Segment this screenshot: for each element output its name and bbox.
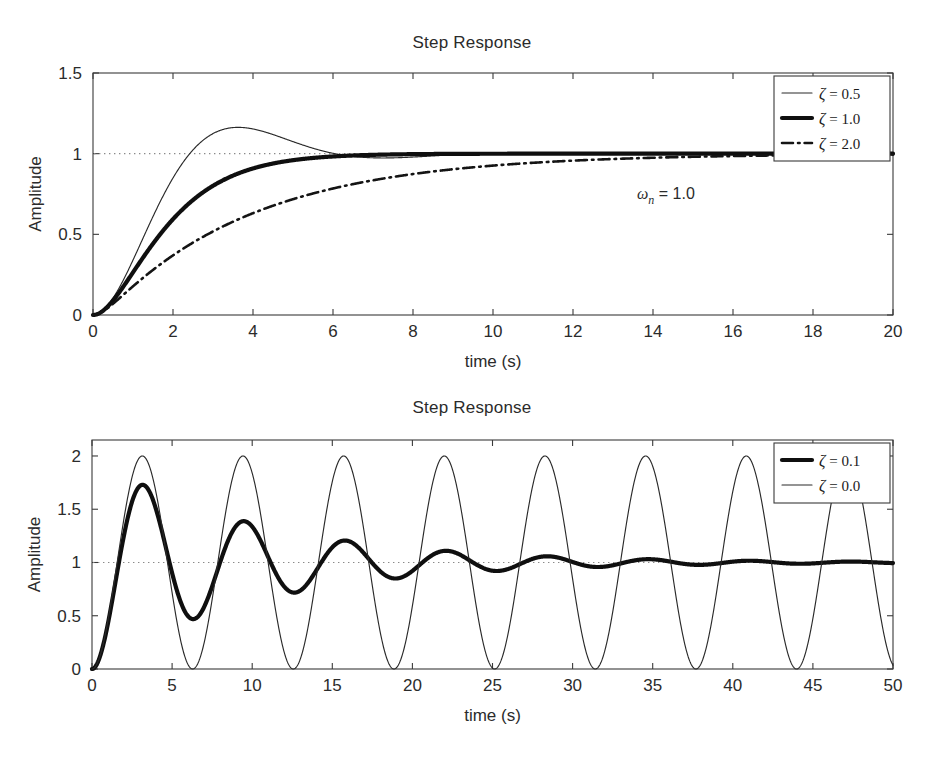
legend-entry-label: ζ = 0.5 <box>819 85 860 103</box>
x-tick-label: 40 <box>723 676 742 695</box>
x-axis-label: time (s) <box>464 706 521 725</box>
x-tick-label: 12 <box>564 322 583 341</box>
plot-frame <box>92 440 893 669</box>
chart-canvas-top: 0246810121416182000.511.5time (s)Amplitu… <box>0 0 944 390</box>
x-tick-label: 4 <box>248 322 257 341</box>
legend-entry-label: ζ = 0.1 <box>819 452 860 470</box>
step-response-figure: Step Response 0246810121416182000.511.5t… <box>0 0 944 774</box>
y-axis-label: Amplitude <box>25 517 44 593</box>
curve-zeta-0-1 <box>92 485 893 669</box>
x-tick-label: 15 <box>323 676 342 695</box>
x-tick-label: 5 <box>167 676 176 695</box>
y-axis-label: Amplitude <box>26 156 45 232</box>
chart-canvas-bottom: 0510152025303540455000.511.52time (s)Amp… <box>0 386 944 774</box>
y-tick-label: 2 <box>72 447 81 466</box>
x-tick-label: 6 <box>328 322 337 341</box>
chart-title-bottom: Step Response <box>0 398 944 418</box>
x-tick-label: 0 <box>88 322 97 341</box>
x-axis-label: time (s) <box>465 352 522 371</box>
y-tick-label: 0 <box>72 660 81 679</box>
legend-entry-label: ζ = 0.0 <box>819 477 860 495</box>
y-tick-label: 1.5 <box>58 64 82 83</box>
x-tick-label: 18 <box>804 322 823 341</box>
annotation-text: ωn = 1.0 <box>637 185 695 207</box>
x-tick-label: 2 <box>168 322 177 341</box>
y-tick-label: 0.5 <box>57 607 81 626</box>
x-tick-label: 45 <box>803 676 822 695</box>
curve-zeta-2-0 <box>93 154 893 315</box>
x-tick-label: 14 <box>644 322 663 341</box>
x-tick-label: 35 <box>643 676 662 695</box>
y-tick-label: 0 <box>73 306 82 325</box>
chart-panel-top: Step Response 0246810121416182000.511.5t… <box>0 0 944 390</box>
y-tick-label: 1.5 <box>57 500 81 519</box>
x-tick-label: 25 <box>483 676 502 695</box>
chart-title-top: Step Response <box>0 33 944 53</box>
x-tick-label: 10 <box>243 676 262 695</box>
curve-zeta-1-0 <box>93 154 893 315</box>
x-tick-label: 0 <box>87 676 96 695</box>
annotation-omega-n: ωn = 1.0 <box>637 185 695 207</box>
x-tick-label: 20 <box>884 322 903 341</box>
chart-panel-bottom: Step Response 0510152025303540455000.511… <box>0 386 944 774</box>
x-tick-label: 8 <box>408 322 417 341</box>
legend-box <box>774 443 890 503</box>
plot-frame <box>93 73 893 315</box>
y-tick-label: 0.5 <box>58 225 82 244</box>
x-tick-label: 50 <box>884 676 903 695</box>
y-tick-label: 1 <box>72 553 81 572</box>
x-tick-label: 20 <box>403 676 422 695</box>
x-tick-label: 16 <box>724 322 743 341</box>
y-tick-label: 1 <box>73 145 82 164</box>
legend-entry-label: ζ = 2.0 <box>819 135 860 153</box>
legend-entry-label: ζ = 1.0 <box>819 110 860 128</box>
x-tick-label: 10 <box>484 322 503 341</box>
legend[interactable]: ζ = 0.1ζ = 0.0 <box>774 443 890 503</box>
x-tick-label: 30 <box>563 676 582 695</box>
legend[interactable]: ζ = 0.5ζ = 1.0ζ = 2.0 <box>774 76 890 161</box>
